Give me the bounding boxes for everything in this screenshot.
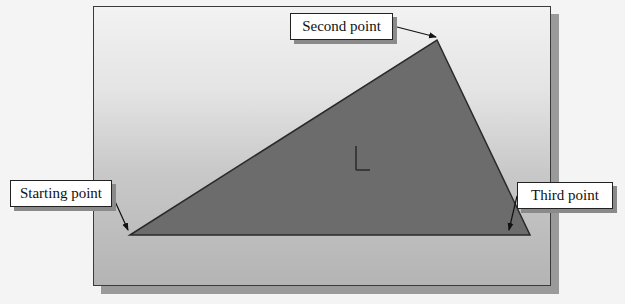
sketch-overlay: [0, 0, 625, 304]
second-point-label: Second point: [302, 19, 381, 34]
starting-point-label: Starting point: [20, 186, 102, 201]
starting-point-callout: Starting point: [10, 180, 112, 207]
third-point-label: Third point: [531, 188, 599, 203]
third-point-callout: Third point: [517, 182, 613, 209]
triangle-sketch[interactable]: [130, 40, 530, 235]
second-point-leader: [397, 27, 436, 37]
second-point-callout: Second point: [290, 13, 393, 40]
